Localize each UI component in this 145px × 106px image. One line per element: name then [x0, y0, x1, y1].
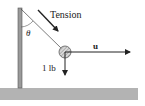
vertical-pole	[18, 8, 22, 88]
theta-angle-arc	[21, 21, 33, 27]
diagram-canvas: Tension θ u 1 lb	[0, 0, 145, 106]
weight-label: 1 lb	[42, 63, 56, 73]
tension-label: Tension	[50, 9, 82, 20]
theta-label: θ	[26, 28, 31, 38]
u-vector-label: u	[93, 41, 98, 51]
ground-surface	[0, 88, 138, 100]
